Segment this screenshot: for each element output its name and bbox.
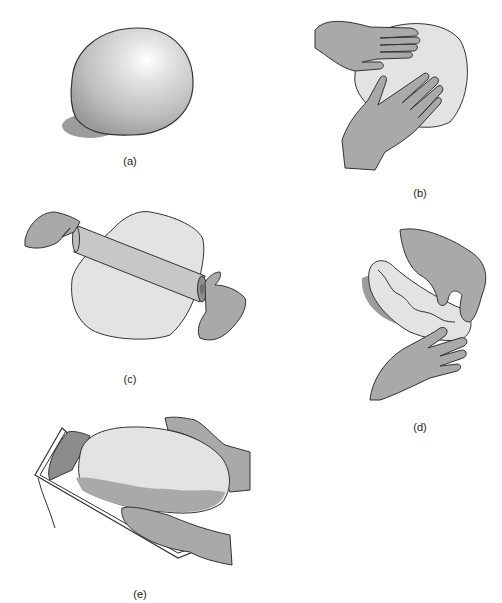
panel-label-d: (d) <box>400 421 440 433</box>
panel-label-a: (a) <box>110 155 150 167</box>
panel-d: (d) <box>300 210 502 435</box>
panel-c: (c) <box>0 190 260 390</box>
hands-flattening-dough-illustration <box>300 0 502 210</box>
loaf-in-pan-illustration <box>0 400 270 603</box>
panel-e: (e) <box>0 400 270 603</box>
panel-label-b: (b) <box>400 187 440 199</box>
panel-b: (b) <box>300 0 502 210</box>
rolling-pin-illustration <box>0 190 260 390</box>
rolling-dough-log-illustration <box>300 210 502 435</box>
dough-ball-illustration <box>0 0 250 180</box>
panel-a: (a) <box>0 0 250 180</box>
panel-label-c: (c) <box>110 373 150 385</box>
panel-label-e: (e) <box>120 588 160 600</box>
